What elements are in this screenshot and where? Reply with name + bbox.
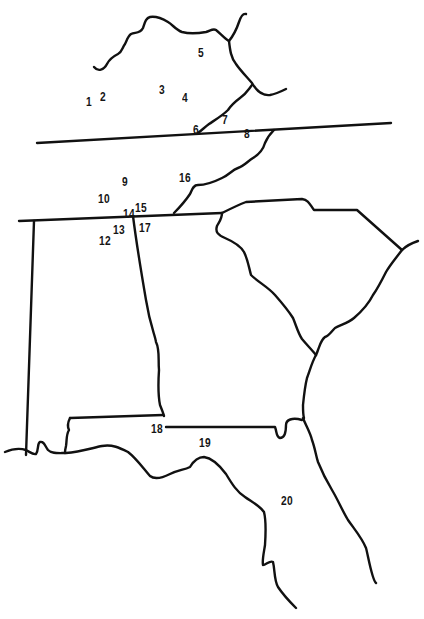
site-label-12: 12 [99,235,111,247]
river-savannah [216,213,316,355]
site-label-19: 19 [199,437,211,449]
site-label-16: 16 [179,172,191,184]
site-label-1: 1 [86,96,92,108]
site-label-4: 4 [182,92,188,104]
site-label-9: 9 [122,176,128,188]
coastline-ga [303,355,316,418]
site-label-17: 17 [139,222,151,234]
site-label-20: 20 [281,495,293,507]
site-label-8: 8 [244,128,250,140]
coastline-gulf [5,442,296,608]
state-line-ga-fl [166,419,302,438]
site-label-3: 3 [159,84,165,96]
site-label-18: 18 [151,423,163,435]
site-label-2: 2 [100,91,106,103]
state-line-ky-tn [37,123,391,143]
site-label-6: 6 [193,124,199,136]
state-line-tn-south [19,213,222,221]
site-label-15: 15 [135,202,147,214]
river-northeast-branch [229,14,246,41]
site-label-5: 5 [198,47,204,59]
state-line-al-ms [26,221,34,455]
coastline-florida-east [303,418,376,583]
site-label-13: 13 [113,224,125,236]
state-line-nc-sc [222,199,402,250]
map-outline [0,0,424,619]
state-line-al-ga [133,216,164,416]
panhandle-west-boundary [65,418,70,453]
northern-river-boundary [94,17,229,70]
site-label-7: 7 [222,114,228,126]
site-label-10: 10 [98,193,110,205]
river-descending [229,41,286,95]
state-line-al-fl [70,415,163,418]
coastline-sc [316,250,402,355]
coastline-carolina [402,241,418,250]
site-label-14: 14 [123,208,135,220]
